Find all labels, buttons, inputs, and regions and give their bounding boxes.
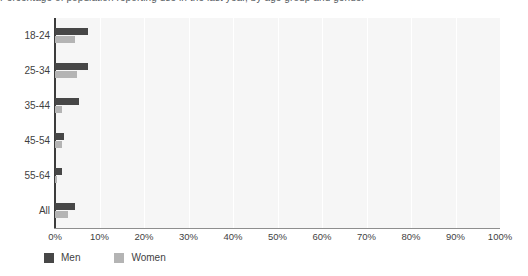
bar-women-45-54: [55, 141, 62, 148]
y-axis-label-55-64: 55-64: [2, 170, 50, 181]
x-axis-tick-50pct: 50%: [268, 231, 287, 243]
y-axis-label-all: All: [2, 205, 50, 216]
gridline: [500, 18, 501, 228]
bar-women-25-34: [55, 71, 77, 78]
y-axis-label-35-44: 35-44: [2, 100, 50, 111]
bar-men-25-34: [55, 63, 88, 70]
bar-women-55-64: [55, 176, 57, 183]
y-axis-label-25-34: 25-34: [2, 65, 50, 76]
bar-men-35-44: [55, 98, 79, 105]
x-axis-line: [54, 228, 500, 229]
x-axis-tick-20pct: 20%: [134, 231, 153, 243]
x-axis-tick-60pct: 60%: [312, 231, 331, 243]
bar-group-35-44: [55, 98, 500, 114]
chart-title-text: Percentage of population reporting use i…: [0, 0, 528, 5]
bar-men-18-24: [55, 28, 88, 35]
bar-women-35-44: [55, 106, 62, 113]
x-axis-ticks: 0%10%20%30%40%50%60%70%80%90%100%: [0, 231, 528, 245]
y-axis-labels: 18-2425-3435-4445-5455-64All: [0, 18, 50, 228]
x-axis-tick-30pct: 30%: [179, 231, 198, 243]
bar-women-18-24: [55, 36, 75, 43]
chart-legend: MenWomen: [44, 252, 200, 263]
x-axis-tick-100pct: 100%: [488, 231, 512, 243]
bar-men-45-54: [55, 133, 64, 140]
legend-swatch-women: [114, 253, 124, 263]
legend-item-women[interactable]: Women: [114, 252, 165, 263]
bar-group-45-54: [55, 133, 500, 149]
bar-group-55-64: [55, 168, 500, 184]
x-axis-tick-10pct: 10%: [90, 231, 109, 243]
x-axis-tick-80pct: 80%: [401, 231, 420, 243]
x-axis-tick-0pct: 0%: [48, 231, 62, 243]
legend-label-men: Men: [61, 252, 80, 263]
bar-men-all: [55, 203, 75, 210]
bar-women-all: [55, 211, 68, 218]
y-axis-label-45-54: 45-54: [2, 135, 50, 146]
legend-swatch-men: [44, 253, 54, 263]
x-axis-tick-70pct: 70%: [357, 231, 376, 243]
x-axis-tick-90pct: 90%: [446, 231, 465, 243]
y-axis-label-18-24: 18-24: [2, 30, 50, 41]
bar-chart: Percentage of population reporting use i…: [0, 0, 528, 276]
bar-men-55-64: [55, 168, 62, 175]
legend-label-women: Women: [131, 252, 165, 263]
legend-item-men[interactable]: Men: [44, 252, 80, 263]
bar-group-18-24: [55, 28, 500, 44]
bar-group-all: [55, 203, 500, 219]
chart-title-clipped: Percentage of population reporting use i…: [0, 0, 528, 5]
bar-group-25-34: [55, 63, 500, 79]
x-axis-tick-40pct: 40%: [223, 231, 242, 243]
bar-groups: [55, 18, 500, 228]
